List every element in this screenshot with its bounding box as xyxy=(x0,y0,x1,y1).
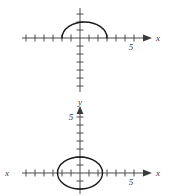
figure-root: 5 x xyxy=(0,0,176,196)
y-axis-label-bottom: y xyxy=(77,98,82,107)
chart-panel-bottom: 5 y 5 x x xyxy=(0,98,176,196)
chart-panel-top: 5 x xyxy=(0,0,176,98)
chart-svg-top: 5 x xyxy=(0,0,176,98)
x-tick-label-5-top: 5 xyxy=(129,42,134,52)
x-axis-label-top: x xyxy=(155,33,160,43)
semi-ellipse-curve-top xyxy=(62,22,107,38)
x-axis-label-left-bottom: x xyxy=(4,168,9,178)
x-axis-arrow-icon-top xyxy=(143,35,152,42)
x-tick-label-5-bottom: 5 xyxy=(129,177,134,187)
x-axis-label-right-bottom: x xyxy=(155,168,160,178)
y-axis-arrow-icon-bottom xyxy=(77,106,84,114)
y-tick-label-5-bottom: 5 xyxy=(69,112,74,122)
chart-svg-bottom: 5 y 5 x x xyxy=(0,98,176,196)
x-axis-arrow-icon-bottom xyxy=(143,170,152,177)
